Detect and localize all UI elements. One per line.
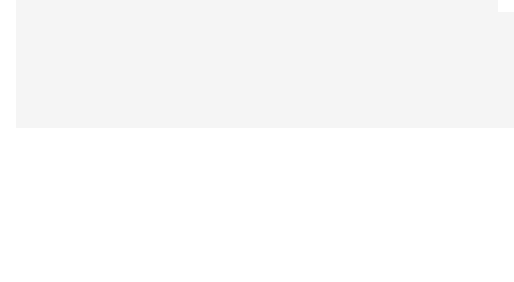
lp-figure <box>0 0 514 282</box>
